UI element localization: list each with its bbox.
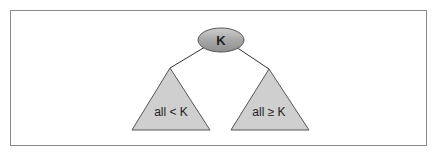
right-subtree-label: all ≥ K xyxy=(252,105,285,119)
left-subtree-label: all < K xyxy=(154,105,188,119)
edge-left xyxy=(170,47,205,68)
right-subtree-triangle xyxy=(231,69,309,130)
left-subtree-triangle xyxy=(132,68,210,130)
bst-diagram: all < K all ≥ K K xyxy=(0,0,438,152)
edge-right xyxy=(236,47,269,69)
root-node-label: K xyxy=(216,33,226,48)
